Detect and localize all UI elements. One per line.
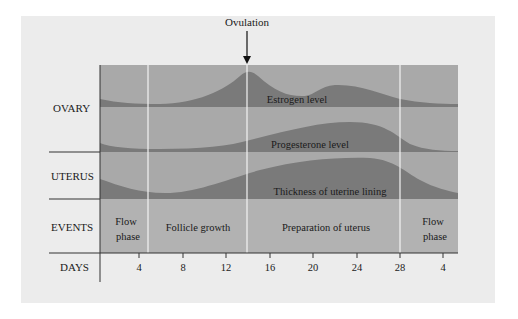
progesterone-label: Progesterone level	[271, 139, 349, 150]
tick-label: 28	[395, 262, 406, 273]
tick-label: 16	[265, 262, 276, 273]
tick-label: 4	[136, 262, 142, 273]
tick-label: 24	[352, 262, 363, 273]
tick-label: 8	[180, 262, 185, 273]
event-flow-phase-1-line1: Flow	[115, 216, 137, 227]
day-ticks	[139, 253, 443, 258]
row-label-uterus: UTERUS	[51, 170, 94, 182]
event-flow-phase-2-line1: Flow	[422, 216, 444, 227]
event-preparation-of-uterus: Preparation of uterus	[282, 222, 370, 233]
estrogen-label: Estrogen level	[267, 94, 327, 105]
day-tick-labels: 4 8 12 16 20 24 28 4	[136, 262, 446, 273]
event-flow-phase-1-line2: phase	[116, 231, 140, 242]
row-label-ovary: OVARY	[53, 102, 90, 114]
arrow-head-icon	[243, 56, 251, 64]
tick-label: 20	[308, 262, 319, 273]
uterine-lining-label: Thickness of uterine lining	[274, 186, 388, 197]
menstrual-cycle-diagram: Ovulation OVARY UTERUS EVENTS DAYS Estro…	[0, 0, 518, 319]
events-band	[100, 199, 458, 253]
event-follicle-growth: Follicle growth	[166, 222, 231, 233]
tick-label: 12	[221, 262, 232, 273]
tick-label: 4	[440, 262, 446, 273]
ovulation-label: Ovulation	[225, 16, 269, 28]
row-label-days: DAYS	[60, 261, 89, 273]
event-flow-phase-2-line2: phase	[423, 231, 447, 242]
row-label-events: EVENTS	[51, 221, 93, 233]
